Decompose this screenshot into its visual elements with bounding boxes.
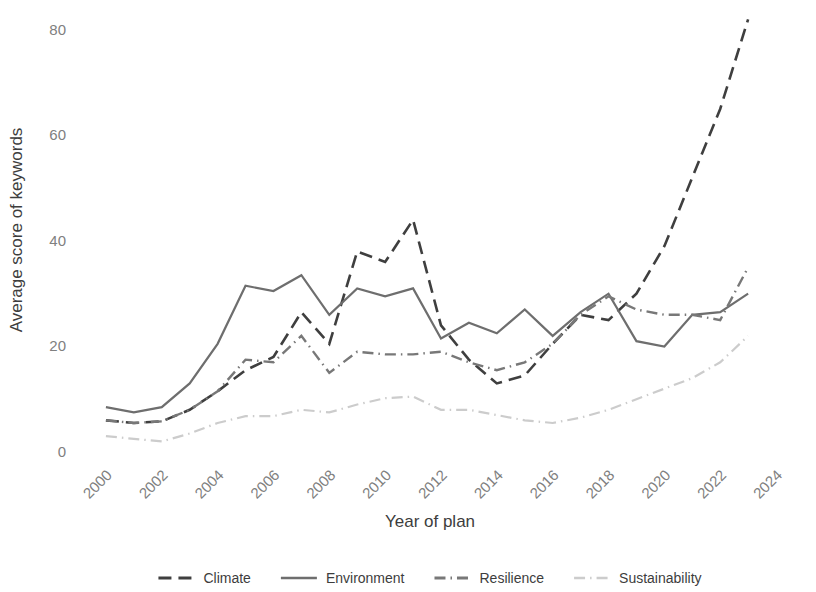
y-axis-title: Average score of keywords [7, 128, 26, 333]
y-tick-label: 40 [49, 232, 66, 249]
y-tick-label: 80 [49, 21, 66, 38]
x-axis-title: Year of plan [385, 512, 475, 531]
y-tick-label: 20 [49, 337, 66, 354]
legend-label-sustainability: Sustainability [619, 570, 702, 586]
legend-label-resilience: Resilience [479, 570, 544, 586]
y-tick-label: 0 [58, 443, 66, 460]
chart-background [0, 0, 816, 592]
legend-label-environment: Environment [326, 570, 405, 586]
y-tick-label: 60 [49, 126, 66, 143]
line-chart: 020406080 200020022004200620082010201220… [0, 0, 816, 592]
legend-label-climate: Climate [203, 570, 251, 586]
